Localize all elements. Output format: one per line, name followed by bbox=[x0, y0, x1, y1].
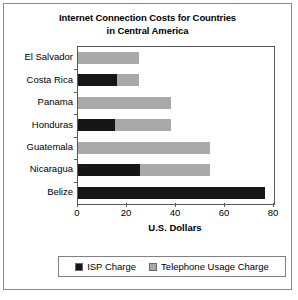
y-axis-tick bbox=[74, 114, 78, 115]
legend-item-isp-charge: ISP Charge bbox=[75, 261, 136, 272]
x-axis-tick-label: 80 bbox=[258, 207, 288, 218]
plot-area bbox=[77, 46, 275, 205]
stacked-bar bbox=[78, 187, 265, 199]
chart-legend: ISP Charge Telephone Usage Charge bbox=[58, 256, 286, 277]
y-axis-labels: El SalvadorCosta RicaPanamaHondurasGuate… bbox=[4, 46, 73, 203]
y-axis-label: Honduras bbox=[3, 119, 73, 130]
y-axis-tick bbox=[74, 182, 78, 183]
chart-figure: Internet Connection Costs for Countries … bbox=[3, 3, 292, 290]
legend-swatch-telephone-usage-charge bbox=[149, 263, 157, 271]
chart-title-line-1: Internet Connection Costs for Countries bbox=[4, 11, 291, 24]
stacked-bar bbox=[78, 142, 210, 154]
bar-segment bbox=[140, 164, 210, 176]
bar-segment bbox=[78, 119, 115, 131]
x-axis-tick-labels: 020406080 bbox=[77, 207, 273, 221]
legend-label-isp-charge: ISP Charge bbox=[87, 261, 136, 272]
bar-row bbox=[78, 182, 274, 204]
bar-segment bbox=[115, 119, 171, 131]
stacked-bar bbox=[78, 119, 171, 131]
y-axis-tick bbox=[74, 137, 78, 138]
bar-row bbox=[78, 114, 274, 136]
bar-segment bbox=[78, 187, 265, 199]
bar-row bbox=[78, 159, 274, 181]
legend-item-telephone-usage-charge: Telephone Usage Charge bbox=[149, 261, 269, 272]
y-axis-label: Guatemala bbox=[3, 141, 73, 152]
y-axis-tick bbox=[74, 159, 78, 160]
y-axis-label: El Salvador bbox=[3, 51, 73, 62]
x-axis-title: U.S. Dollars bbox=[77, 222, 273, 233]
x-axis-tick-label: 40 bbox=[160, 207, 190, 218]
bar-segment bbox=[78, 164, 140, 176]
bar-segment bbox=[78, 52, 139, 64]
x-axis-tick-label: 0 bbox=[62, 207, 92, 218]
y-axis-label: Belize bbox=[3, 186, 73, 197]
stacked-bar bbox=[78, 164, 210, 176]
bar-row bbox=[78, 69, 274, 91]
x-axis-tick-label: 60 bbox=[209, 207, 239, 218]
bar-segment bbox=[117, 74, 139, 86]
bar-segment bbox=[78, 142, 210, 154]
bar-segment bbox=[78, 74, 117, 86]
y-axis-tick bbox=[74, 69, 78, 70]
stacked-bar bbox=[78, 52, 139, 64]
bar-row bbox=[78, 47, 274, 69]
chart-title-line-2: in Central America bbox=[4, 24, 291, 37]
y-axis-label: Panama bbox=[3, 96, 73, 107]
chart-title: Internet Connection Costs for Countries … bbox=[4, 11, 291, 37]
bar-segment bbox=[78, 97, 171, 109]
y-axis-tick bbox=[74, 92, 78, 93]
y-axis-label: Nicaragua bbox=[3, 163, 73, 174]
legend-swatch-isp-charge bbox=[75, 263, 83, 271]
stacked-bar bbox=[78, 97, 171, 109]
bar-row bbox=[78, 92, 274, 114]
legend-label-telephone-usage-charge: Telephone Usage Charge bbox=[161, 261, 269, 272]
stacked-bar bbox=[78, 74, 139, 86]
bar-row bbox=[78, 137, 274, 159]
x-axis-tick-label: 20 bbox=[111, 207, 141, 218]
y-axis-label: Costa Rica bbox=[3, 74, 73, 85]
